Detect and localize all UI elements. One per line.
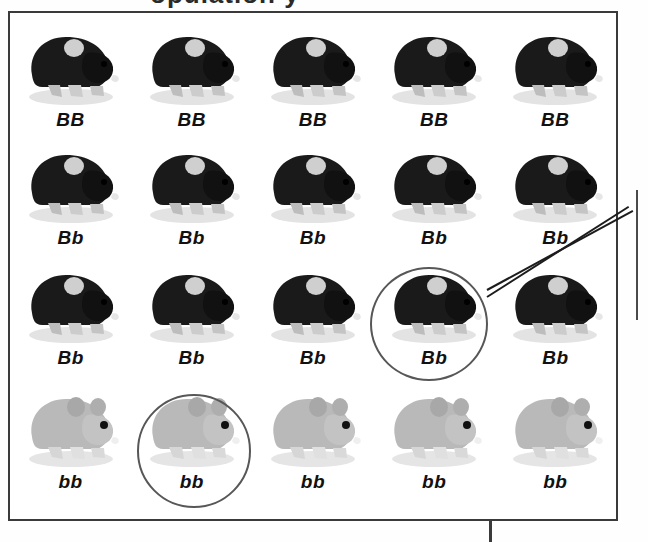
dark-mouse-icon [139,23,245,107]
light-mouse-icon [139,385,245,469]
individual-cell[interactable]: BB [499,23,611,141]
individual-cell[interactable]: bb [257,385,369,503]
dark-mouse-icon [381,23,487,107]
individual-cell-circled[interactable]: bb [136,385,248,503]
individual-cell[interactable]: BB [15,23,127,141]
individual-cell[interactable]: Bb [15,141,127,259]
dark-mouse-icon [260,23,366,107]
genotype-row-bb-hetero-1: Bb Bb [10,141,616,259]
genotype-label: bb [543,471,567,493]
individual-cell[interactable]: Bb [136,141,248,259]
individual-cell[interactable]: Bb [15,261,127,379]
dark-mouse-icon [502,141,608,225]
figure-root: opulation y [0,0,648,542]
individual-cell[interactable]: BB [378,23,490,141]
genotype-label: Bb [179,227,205,249]
top-cut-text: opulation y [0,0,648,9]
individual-cell[interactable]: bb [499,385,611,503]
genotype-label: BB [178,109,206,131]
genotype-label: BB [299,109,327,131]
top-cut-text-label: opulation y [150,0,300,9]
dark-mouse-icon [381,141,487,225]
individual-cell[interactable]: Bb [257,141,369,259]
genotype-label: Bb [421,227,447,249]
light-mouse-icon [18,385,124,469]
dark-mouse-icon [260,141,366,225]
genotype-label: bb [180,471,204,493]
genotype-label: BB [420,109,448,131]
dark-mouse-icon [18,141,124,225]
individual-cell[interactable]: BB [136,23,248,141]
individual-cell[interactable]: BB [257,23,369,141]
individual-cell[interactable]: Bb [257,261,369,379]
dark-mouse-icon [381,261,487,345]
genotype-row-bb-hetero-2: Bb Bb [10,261,616,379]
genotype-label: Bb [57,347,83,369]
individual-cell[interactable]: Bb [499,141,611,259]
genotype-label: Bb [421,347,447,369]
dark-mouse-icon [139,141,245,225]
genotype-label: Bb [57,227,83,249]
dark-mouse-icon [18,23,124,107]
individual-cell[interactable]: Bb [378,141,490,259]
genotype-label: BB [56,109,84,131]
light-mouse-icon [502,385,608,469]
genotype-label: bb [58,471,82,493]
individual-cell[interactable]: Bb [136,261,248,379]
genotype-label: bb [301,471,325,493]
genotype-label: bb [422,471,446,493]
genotype-label: BB [541,109,569,131]
genotype-label: Bb [179,347,205,369]
dark-mouse-icon [18,261,124,345]
individual-cell-circled[interactable]: Bb [378,261,490,379]
tick-mark-icon [489,521,492,542]
individual-cell[interactable]: bb [378,385,490,503]
genotype-label: Bb [300,347,326,369]
individual-cell[interactable]: bb [15,385,127,503]
genotype-row-bb: BB BB [10,23,616,141]
genotype-label: Bb [542,347,568,369]
adjacent-panel-edge [636,190,638,320]
genotype-label: Bb [300,227,326,249]
dark-mouse-icon [502,23,608,107]
genotype-row-bb-recessive: bb bb [10,385,616,503]
light-mouse-icon [381,385,487,469]
light-mouse-icon [260,385,366,469]
dark-mouse-icon [260,261,366,345]
dark-mouse-icon [139,261,245,345]
